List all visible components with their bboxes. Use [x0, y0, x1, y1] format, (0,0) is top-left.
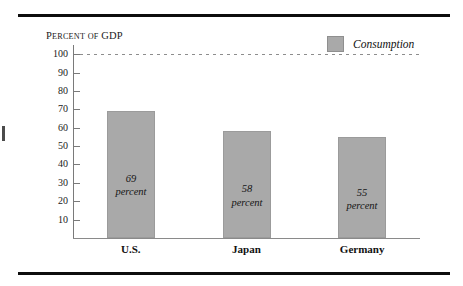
figure-container: PERCENT OF GDP Consumption 1020304050607…: [0, 0, 463, 286]
y-tick-20: [73, 201, 80, 202]
bar-japan: 58percent: [223, 131, 271, 238]
y-axis-title-gdp: GDP: [101, 30, 123, 41]
y-tick-label-60: 60: [42, 123, 68, 133]
y-axis-title-rest: ERCENT: [52, 32, 85, 41]
bar-value-number: 58: [224, 182, 270, 195]
y-tick-label-40: 40: [42, 159, 68, 169]
bar-value-unit: percent: [339, 199, 385, 212]
y-tick-50: [73, 146, 80, 147]
y-tick-label-80: 80: [42, 86, 68, 96]
y-axis-title: PERCENT OF GDP: [46, 30, 123, 41]
y-tick-10: [73, 220, 80, 221]
reference-line-100: [80, 54, 420, 55]
y-tick-label-20: 20: [42, 196, 68, 206]
y-tick-label-10: 10: [42, 215, 68, 225]
bar-value-label: 55percent: [339, 186, 385, 212]
y-tick-100: [73, 54, 80, 55]
page-edge-artifact: [2, 126, 5, 141]
bar-value-number: 69: [108, 172, 154, 185]
y-tick-label-70: 70: [42, 104, 68, 114]
y-tick-70: [73, 109, 80, 110]
bar-value-unit: percent: [224, 196, 270, 209]
x-axis-line: [73, 238, 420, 239]
bar-value-label: 69percent: [108, 172, 154, 198]
y-axis-title-of: OF: [88, 32, 99, 41]
y-tick-label-30: 30: [42, 178, 68, 188]
legend: Consumption: [327, 36, 414, 52]
y-tick-40: [73, 164, 80, 165]
top-rule: [18, 14, 450, 17]
bar-value-label: 58percent: [224, 182, 270, 208]
legend-swatch-consumption: [327, 36, 344, 52]
y-tick-label-100: 100: [42, 49, 68, 59]
x-category-label-germany: Germany: [304, 243, 420, 255]
y-tick-80: [73, 91, 80, 92]
x-category-label-japan: Japan: [189, 243, 305, 255]
y-tick-30: [73, 183, 80, 184]
legend-label-consumption: Consumption: [353, 38, 414, 50]
y-tick-label-90: 90: [42, 68, 68, 78]
y-axis-line: [73, 45, 74, 239]
bar-value-unit: percent: [108, 185, 154, 198]
y-tick-60: [73, 128, 80, 129]
bar-germany: 55percent: [338, 137, 386, 238]
bar-value-number: 55: [339, 186, 385, 199]
x-category-label-us: U.S.: [73, 243, 189, 255]
bottom-rule: [18, 272, 450, 275]
y-tick-label-50: 50: [42, 141, 68, 151]
y-tick-90: [73, 73, 80, 74]
bar-us: 69percent: [107, 111, 155, 238]
